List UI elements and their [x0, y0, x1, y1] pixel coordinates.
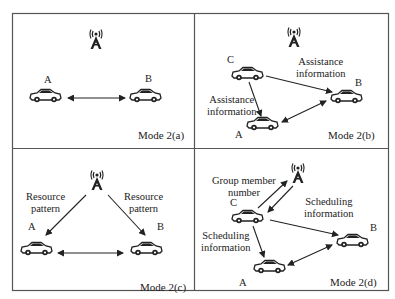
- panel-a: [30, 30, 161, 103]
- car-icon-c: [232, 68, 263, 81]
- cell-tower-icon: [91, 171, 103, 191]
- car-icon-b: [130, 90, 161, 103]
- mode-label: Mode 2(b): [328, 129, 375, 141]
- cell-tower-icon: [292, 164, 304, 184]
- node-label-b: B: [145, 73, 152, 85]
- mode-label: Mode 2(c): [140, 281, 186, 293]
- node-label-c: C: [230, 197, 237, 209]
- assistance-info-label-left: Assistanceinformation: [207, 94, 257, 118]
- node-label-a: A: [28, 221, 36, 233]
- car-icon-b: [331, 91, 362, 104]
- diagram-canvas: [0, 0, 395, 299]
- mode-label: Mode 2(a): [138, 129, 184, 141]
- cell-tower-icon: [288, 28, 300, 48]
- node-label-b: B: [355, 77, 362, 89]
- car-icon-a: [30, 90, 61, 103]
- resource-pattern-label-left: Resourcepattern: [26, 191, 65, 215]
- car-icon-a: [21, 243, 52, 256]
- node-label-c: C: [227, 54, 234, 66]
- scheduling-info-label-left: Schedulinginformation: [201, 230, 251, 254]
- assistance-info-label-top: Assistanceinformation: [296, 56, 346, 80]
- car-icon-a: [247, 118, 278, 131]
- scheduling-info-label-right: Schedulinginformation: [304, 196, 354, 220]
- mode-label: Mode 2(d): [330, 276, 377, 288]
- car-icon-c: [232, 211, 263, 224]
- node-label-b: B: [370, 222, 377, 234]
- node-label-a: A: [235, 129, 243, 141]
- node-label-a: A: [239, 277, 247, 289]
- car-icon-b: [337, 235, 368, 248]
- car-icon-a: [254, 261, 285, 274]
- node-label-b: B: [157, 221, 164, 233]
- resource-pattern-label-right: Resourcepattern: [124, 191, 163, 215]
- node-label-a: A: [44, 74, 52, 86]
- cell-tower-icon: [90, 30, 102, 50]
- car-icon-b: [131, 243, 162, 256]
- group-member-label: Group membernumber: [212, 175, 276, 199]
